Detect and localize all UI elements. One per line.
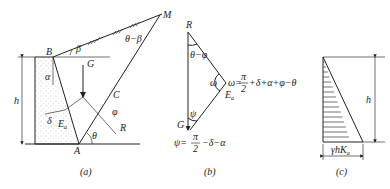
retaining-wall xyxy=(35,57,79,144)
force-Ea-b: Ea xyxy=(224,89,234,101)
earth-pressure-diagram: B M G C A R β θ−β α δ φ θ Ea h (a) R G θ… xyxy=(0,0,390,189)
angle-alpha: α xyxy=(45,71,51,82)
angle-psi: ψ xyxy=(190,108,197,119)
point-M: M xyxy=(162,9,172,20)
angle-theta: θ xyxy=(92,130,97,141)
point-B: B xyxy=(46,46,52,57)
svg-text:2: 2 xyxy=(193,143,198,154)
angle-delta: δ xyxy=(47,115,52,126)
figure-c: h γhKa (c) xyxy=(323,57,385,178)
svg-text:π: π xyxy=(193,131,199,142)
omega-equation: ω= xyxy=(228,77,242,88)
angle-beta: β xyxy=(75,43,81,54)
angle-omega: ω xyxy=(210,77,217,88)
point-A: A xyxy=(73,145,81,156)
height-label-c: h xyxy=(366,94,371,105)
beta-arc xyxy=(70,50,72,55)
backfill-surface xyxy=(53,14,162,57)
svg-text:+δ+α+φ−θ: +δ+α+φ−θ xyxy=(249,77,296,88)
svg-text:−δ−α: −δ−α xyxy=(202,137,226,148)
angle-phi: φ xyxy=(112,106,118,117)
height-label: h xyxy=(14,95,19,106)
figure-b: R G θ−φ ω ω= π 2 +δ+α+φ−θ Ea ψ ψ= π 2 −δ… xyxy=(174,19,296,178)
vertex-G: G xyxy=(177,119,184,130)
figure-a: B M G C A R β θ−β α δ φ θ Ea h (a) xyxy=(14,9,172,178)
earth-pressure-vector xyxy=(190,83,226,130)
caption-a: (a) xyxy=(80,166,92,178)
vertex-R: R xyxy=(185,19,192,30)
base-label: γhKa xyxy=(331,144,350,156)
caption-c: (c) xyxy=(336,166,348,178)
pressure-triangle xyxy=(323,57,363,142)
point-C: C xyxy=(113,89,120,100)
psi-equation: ψ= xyxy=(174,137,187,148)
point-G: G xyxy=(87,58,94,69)
pressure-hatch xyxy=(323,62,349,137)
svg-text:π: π xyxy=(241,71,247,82)
point-R: R xyxy=(119,122,126,133)
angle-theta-minus-phi: θ−φ xyxy=(190,49,208,60)
svg-text:2: 2 xyxy=(241,83,246,94)
caption-b: (b) xyxy=(204,166,216,178)
angle-theta-minus-beta: θ−β xyxy=(125,33,142,44)
